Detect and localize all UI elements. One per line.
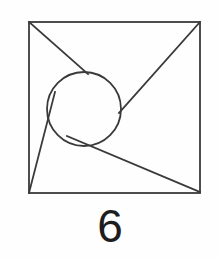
figure-container: 6 [0,0,218,261]
figure-drawing [0,0,218,261]
